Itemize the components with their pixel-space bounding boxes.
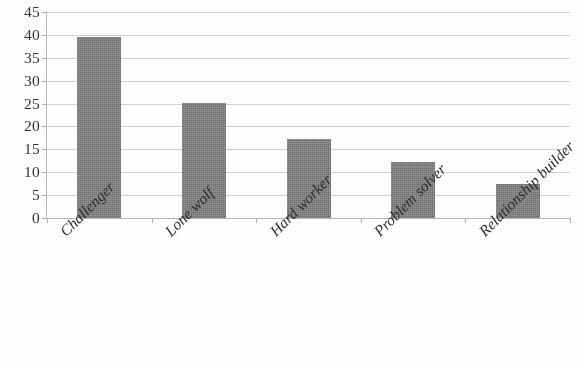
y-axis-tick-mark	[42, 81, 47, 82]
y-axis-tick-label: 5	[0, 187, 40, 203]
y-axis-tick-mark	[42, 35, 47, 36]
y-axis-tick-mark	[42, 58, 47, 59]
y-axis-tick-label: 25	[0, 96, 40, 112]
x-axis-tick-mark	[152, 218, 153, 223]
y-axis-tick-label: 15	[0, 141, 40, 157]
x-axis-tick-mark	[256, 218, 257, 223]
y-axis-tick-label: 10	[0, 164, 40, 180]
x-axis-tick-mark	[361, 218, 362, 223]
y-axis-tick-label: 20	[0, 118, 40, 134]
x-axis-category-labels: ChallengerLone wolfHard workerProblem so…	[0, 218, 579, 370]
x-axis-tick-mark	[47, 218, 48, 223]
y-axis-tick-label: 30	[0, 73, 40, 89]
y-axis-tick-mark	[42, 126, 47, 127]
bar-chart: 051015202530354045 ChallengerLone wolfHa…	[0, 0, 579, 370]
y-axis-tick-label: 45	[0, 4, 40, 20]
y-axis-tick-mark	[42, 195, 47, 196]
y-axis-tick-mark	[42, 12, 47, 13]
y-axis-tick-label: 40	[0, 27, 40, 43]
y-axis-tick-mark	[42, 172, 47, 173]
x-axis-tick-mark	[465, 218, 466, 223]
y-axis-tick-label: 35	[0, 50, 40, 66]
y-axis-tick-mark	[42, 104, 47, 105]
y-axis-tick-labels: 051015202530354045	[0, 0, 40, 230]
y-axis-tick-mark	[42, 149, 47, 150]
x-axis-tick-mark	[570, 218, 571, 223]
